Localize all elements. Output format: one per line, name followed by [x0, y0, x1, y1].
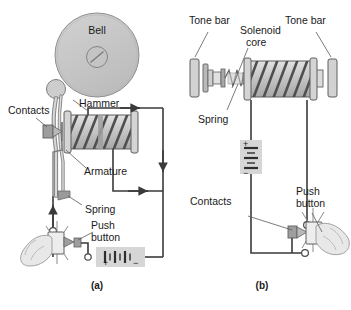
spring-label-a: Spring	[85, 203, 116, 215]
tone-bar-left	[190, 59, 199, 97]
solenoid-coil-b	[243, 58, 318, 100]
battery-a-plus: +	[103, 258, 108, 268]
panel-b: + −	[189, 14, 349, 291]
tone-bar-right	[328, 59, 337, 97]
push-button-label-a-line2: button	[91, 231, 120, 243]
battery-b: + −	[240, 139, 262, 178]
hammer-rod	[54, 98, 56, 196]
hand-b	[316, 223, 349, 254]
hammer-label: Hammer	[79, 97, 120, 109]
spring-label-b: Spring	[198, 113, 229, 125]
battery-b-minus: −	[243, 168, 248, 178]
push-button-label-a-line1: Push	[91, 219, 115, 231]
figure-container: Bell	[0, 0, 351, 310]
left-striker-assembly	[203, 64, 225, 92]
armature-label: Armature	[84, 165, 127, 177]
contacts-label-a: Contacts	[8, 104, 49, 116]
solenoid-label-line2: core	[246, 36, 267, 48]
panel-a: Bell	[8, 13, 163, 291]
electromagnet-coil-a	[63, 111, 138, 153]
bell-label: Bell	[88, 24, 106, 36]
panel-b-caption: (b)	[256, 280, 269, 291]
push-button-label-b-line1: Push	[296, 185, 320, 197]
panel-a-caption: (a)	[91, 280, 103, 291]
bell-and-buzzer-diagram: Bell	[0, 0, 351, 310]
contacts-assembly-a	[43, 122, 62, 196]
push-button-label-b-line2: button	[296, 197, 325, 209]
push-button-a[interactable]	[46, 221, 91, 264]
hand-a	[21, 235, 52, 266]
tone-bar-left-label: Tone bar	[189, 14, 230, 26]
solenoid-label-line1: Solenoid	[240, 24, 281, 36]
battery-a: + −	[96, 247, 145, 268]
battery-b-plus: +	[243, 139, 248, 149]
battery-a-minus: −	[133, 258, 138, 268]
tone-bar-right-label: Tone bar	[285, 14, 326, 26]
contacts-label-b: Contacts	[190, 195, 231, 207]
bell-center-screw	[87, 47, 108, 68]
